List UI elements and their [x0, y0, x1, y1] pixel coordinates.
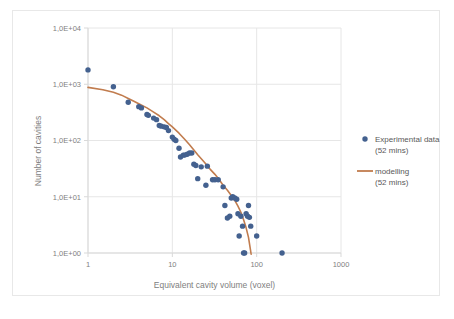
y-axis-title: Number of cavities: [33, 116, 43, 186]
y-tick-label: 1,0E+00: [53, 249, 81, 258]
x-tick-label: 10: [168, 260, 176, 269]
data-point: [111, 84, 116, 89]
data-point: [227, 214, 232, 219]
legend-item-label: (52 mins): [375, 178, 409, 187]
data-point: [85, 67, 90, 72]
data-point: [176, 145, 181, 150]
data-point: [126, 99, 131, 104]
data-point: [254, 233, 259, 238]
data-point: [236, 233, 241, 238]
y-tick-label: 1,0E+03: [53, 80, 81, 89]
data-point: [173, 138, 178, 143]
modelling-line-series: [88, 87, 251, 254]
data-point: [248, 223, 253, 228]
chart-plot-area: 1101001000 1,0E+001,0E+011,0E+021,0E+031…: [13, 11, 441, 297]
data-point: [246, 203, 251, 208]
experimental-data-series: [85, 67, 284, 256]
x-tick-label: 1000: [333, 260, 350, 269]
data-point: [166, 128, 171, 133]
chart-legend: Experimental data(52 mins)modelling(52 m…: [357, 135, 440, 187]
data-point: [238, 214, 243, 219]
y-tick-label: 1,0E+01: [53, 193, 81, 202]
data-point: [247, 215, 252, 220]
data-point: [242, 250, 247, 255]
gridlines: [88, 28, 341, 253]
tick-marks: [84, 28, 341, 257]
x-axis-title: Equivalent cavity volume (voxel): [154, 280, 276, 290]
data-point: [199, 164, 204, 169]
data-point: [240, 223, 245, 228]
data-point: [203, 183, 208, 188]
chart-figure: 1101001000 1,0E+001,0E+011,0E+021,0E+031…: [12, 10, 440, 296]
x-tick-label: 1: [86, 260, 90, 269]
data-point: [220, 184, 225, 189]
data-point: [139, 105, 144, 110]
legend-item-label: (52 mins): [375, 146, 409, 155]
data-point: [216, 177, 221, 182]
legend-item-label: Experimental data: [375, 135, 440, 144]
data-point: [193, 163, 198, 168]
y-tick-label: 1,0E+04: [53, 24, 81, 33]
data-point: [222, 203, 227, 208]
data-point: [234, 197, 239, 202]
legend-item-label: modelling: [375, 167, 409, 176]
x-tick-label: 100: [250, 260, 263, 269]
y-axis-tick-labels: 1,0E+001,0E+011,0E+021,0E+031,0E+04: [53, 24, 81, 258]
y-tick-label: 1,0E+02: [53, 136, 81, 145]
data-point: [146, 113, 151, 118]
data-point: [154, 117, 159, 122]
data-point: [279, 250, 284, 255]
data-point: [205, 163, 210, 168]
x-axis-tick-labels: 1101001000: [86, 260, 349, 269]
data-point: [189, 150, 194, 155]
data-point: [195, 176, 200, 181]
legend-marker-circle-icon: [362, 136, 367, 141]
modelling-line: [88, 87, 251, 254]
